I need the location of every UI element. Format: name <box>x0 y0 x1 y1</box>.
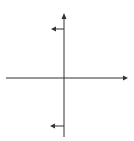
x-axis-arrowhead-icon <box>123 76 128 81</box>
axes-group <box>6 13 128 137</box>
lower-left-arrow-head-icon <box>50 124 55 129</box>
axes-diagram <box>0 0 134 141</box>
y-axis-arrowhead-icon <box>62 13 67 19</box>
upper-left-arrow-head-icon <box>51 27 56 32</box>
